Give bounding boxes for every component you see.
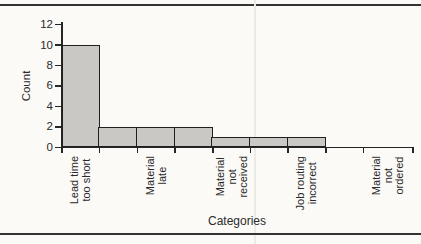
bar-bin-5 — [211, 137, 250, 147]
y-tick-label: 6 — [27, 79, 53, 92]
category-label-text: Job routing incorrect — [296, 156, 319, 210]
x-tick — [137, 147, 139, 153]
x-tick — [174, 147, 176, 153]
scanned-page: Count Categories 024681012Lead time too … — [0, 0, 421, 244]
x-tick — [61, 147, 63, 153]
count-by-category-bar-chart: Count Categories 024681012Lead time too … — [0, 0, 421, 244]
y-tick — [55, 85, 61, 87]
category-label-text: Lead time too short — [69, 156, 92, 204]
x-tick — [325, 147, 327, 153]
bar-bin-1 — [62, 45, 100, 147]
y-tick-label: 0 — [27, 141, 53, 154]
x-tick — [363, 147, 365, 153]
bar-bin-7 — [287, 137, 326, 147]
x-tick — [287, 147, 289, 153]
x-tick — [212, 147, 214, 153]
bar-bin-3 — [136, 127, 175, 147]
category-label-text: Material not ordered — [371, 156, 406, 195]
y-tick — [55, 126, 61, 128]
bar-bin-4 — [174, 127, 213, 147]
category-label-text: Material late — [145, 156, 168, 195]
y-tick-label: 10 — [27, 39, 53, 52]
bottom-rule — [0, 233, 421, 235]
y-tick-label: 4 — [27, 100, 53, 113]
bar-bin-2 — [98, 127, 137, 147]
y-tick — [55, 106, 61, 108]
y-tick-label: 2 — [27, 120, 53, 133]
x-tick — [250, 147, 252, 153]
y-tick — [55, 24, 61, 26]
category-label-text: Material not received — [214, 156, 249, 198]
x-axis-title: Categories — [192, 214, 282, 228]
y-tick-label: 8 — [27, 59, 53, 72]
y-tick-label: 12 — [27, 18, 53, 31]
x-tick — [412, 147, 414, 153]
y-tick — [55, 44, 61, 46]
y-tick — [55, 65, 61, 67]
bar-bin-6 — [249, 137, 288, 147]
x-tick — [99, 147, 101, 153]
